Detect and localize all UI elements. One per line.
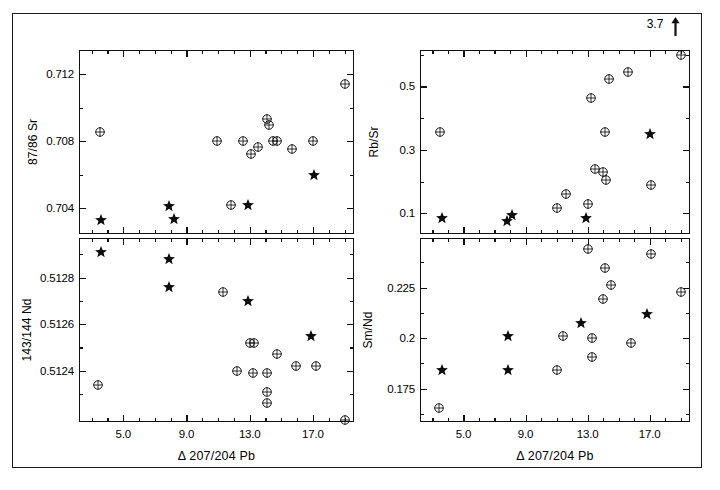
data-point-circle bbox=[599, 263, 611, 275]
y-tick-minor bbox=[420, 262, 424, 263]
x-tick-minor bbox=[557, 418, 558, 422]
y-tick-label: 0.175 bbox=[387, 383, 415, 395]
data-point-star bbox=[435, 364, 448, 377]
y-tick-major bbox=[420, 338, 427, 339]
x-tick-minor bbox=[494, 418, 495, 422]
y-tick-major bbox=[420, 288, 427, 289]
x-tick-minor bbox=[541, 418, 542, 422]
data-point-star bbox=[502, 364, 515, 377]
data-point-circle bbox=[551, 365, 563, 377]
data-point-circle bbox=[605, 279, 617, 291]
data-point-star bbox=[502, 330, 515, 343]
x-tick-minor-top bbox=[557, 238, 558, 242]
x-tick-major bbox=[650, 415, 651, 422]
y-tick-label: 0.225 bbox=[387, 282, 415, 294]
x-tick-major-top bbox=[650, 238, 651, 245]
x-axis-title: Δ 207/204 Pb bbox=[516, 449, 593, 463]
y-tick-major-right bbox=[683, 389, 690, 390]
x-tick-minor-top bbox=[603, 238, 604, 242]
data-point-circle bbox=[586, 352, 598, 364]
x-tick-minor bbox=[448, 418, 449, 422]
x-tick-minor-top bbox=[448, 238, 449, 242]
x-tick-major-top bbox=[463, 238, 464, 245]
data-point-circle bbox=[557, 330, 569, 342]
x-tick-minor bbox=[572, 418, 573, 422]
x-tick-minor-top bbox=[619, 238, 620, 242]
x-tick-minor-top bbox=[665, 238, 666, 242]
x-tick-minor bbox=[665, 418, 666, 422]
x-tick-minor-top bbox=[479, 238, 480, 242]
data-point-circle bbox=[597, 293, 609, 305]
x-tick-major bbox=[463, 415, 464, 422]
x-tick-minor bbox=[479, 418, 480, 422]
y-tick-minor bbox=[420, 363, 424, 364]
plot-area-smnd bbox=[420, 238, 690, 422]
x-tick-minor bbox=[681, 418, 682, 422]
data-point-circle bbox=[625, 337, 637, 349]
x-tick-minor bbox=[634, 418, 635, 422]
x-tick-minor bbox=[603, 418, 604, 422]
y-tick-major-right bbox=[683, 338, 690, 339]
y-tick-minor-right bbox=[686, 363, 690, 364]
y-tick-label: 0.2 bbox=[400, 332, 415, 344]
data-point-circle bbox=[675, 286, 687, 298]
y-tick-minor bbox=[420, 313, 424, 314]
data-point-circle bbox=[586, 332, 598, 344]
data-point-circle bbox=[582, 243, 594, 255]
x-tick-label: 9.0 bbox=[518, 428, 533, 440]
x-tick-major bbox=[588, 415, 589, 422]
y-tick-minor-right bbox=[686, 313, 690, 314]
data-point-star bbox=[640, 307, 653, 320]
x-tick-minor bbox=[510, 418, 511, 422]
x-tick-minor-top bbox=[681, 238, 682, 242]
x-tick-minor bbox=[432, 418, 433, 422]
x-tick-minor-top bbox=[634, 238, 635, 242]
x-tick-major bbox=[526, 415, 527, 422]
x-tick-minor bbox=[619, 418, 620, 422]
y-tick-major bbox=[420, 389, 427, 390]
x-tick-minor-top bbox=[432, 238, 433, 242]
data-point-star bbox=[575, 316, 588, 329]
y-tick-minor-right bbox=[686, 414, 690, 415]
y-tick-minor-right bbox=[686, 262, 690, 263]
x-tick-label: 5.0 bbox=[456, 428, 471, 440]
chart-panel-smnd: 0.1750.20.2255.09.013.017.0Δ 207/204 PbS… bbox=[0, 0, 720, 490]
data-point-circle bbox=[433, 402, 445, 414]
x-tick-minor-top bbox=[541, 238, 542, 242]
x-tick-major-top bbox=[526, 238, 527, 245]
y-axis-title: Sm/Nd bbox=[361, 311, 375, 348]
data-point-circle bbox=[645, 248, 657, 260]
scientific-figure: 0.7040.7080.71287/86 Sr0.51240.51260.512… bbox=[0, 0, 720, 490]
y-tick-minor bbox=[420, 414, 424, 415]
x-tick-minor-top bbox=[572, 238, 573, 242]
x-tick-minor-top bbox=[510, 238, 511, 242]
x-tick-label: 17.0 bbox=[639, 428, 661, 440]
x-tick-label: 13.0 bbox=[577, 428, 599, 440]
x-tick-minor-top bbox=[494, 238, 495, 242]
